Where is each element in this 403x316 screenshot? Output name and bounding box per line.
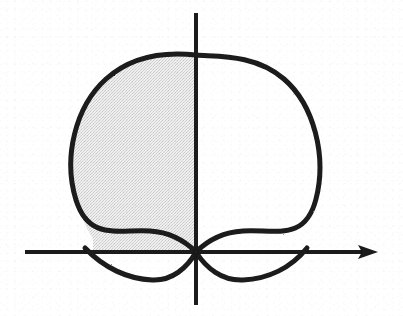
cardioid-diagram bbox=[0, 0, 403, 316]
figure-root bbox=[0, 0, 403, 316]
cusp-point bbox=[194, 250, 199, 255]
